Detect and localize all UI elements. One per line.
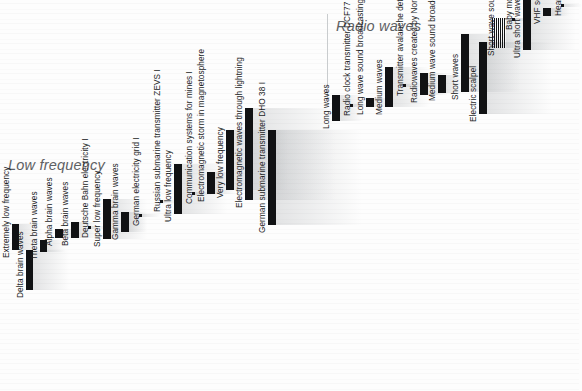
- band-label: Short waves: [451, 54, 460, 100]
- band-label: Medium wave sound broadcasting*: [428, 0, 437, 101]
- band-bar[interactable]: [71, 222, 79, 238]
- band-label: German submarine transmitter DHO 38 I: [258, 82, 267, 233]
- band-label: Very low frequency: [216, 127, 225, 198]
- band-label: Ultra short waves: [513, 0, 522, 58]
- band-bar[interactable]: [332, 95, 340, 121]
- band-label: Electromagnetic storm in magnetosphere: [197, 49, 206, 202]
- band-label: Extremely low frequency: [2, 167, 11, 259]
- band-bar[interactable]: [438, 75, 446, 93]
- band-bar[interactable]: [207, 172, 215, 194]
- band-label: Theta brain waves: [30, 191, 39, 260]
- band-halo: [564, 4, 582, 7]
- band-halo: [142, 214, 160, 217]
- band-label: Medium waves: [375, 59, 384, 115]
- band-label: Deutsche Bahn electricity I: [81, 138, 90, 238]
- band-bar[interactable]: [226, 130, 234, 190]
- band-label: Super low frequency: [93, 170, 102, 247]
- band-label: Ultra low frequency: [164, 150, 173, 222]
- band-bar[interactable]: [479, 42, 487, 114]
- band-label: Short wave sound broadcasting*: [487, 0, 496, 56]
- band-halo: [276, 130, 362, 225]
- band-label: Communication systems for mines I: [185, 71, 194, 204]
- band-bar[interactable]: [385, 67, 393, 107]
- band-label: Beta brain waves: [61, 182, 70, 246]
- band-bar[interactable]: [268, 130, 276, 225]
- band-label: Electromagnetic waves through lightning: [235, 57, 244, 208]
- band-bar[interactable]: [523, 0, 531, 50]
- band-label: German electricity grid I: [132, 137, 141, 226]
- band-label: Hearing aids* I: [554, 0, 563, 16]
- band-bar[interactable]: [245, 108, 253, 200]
- band-bar[interactable]: [543, 8, 551, 16]
- band-label: Delta brain waves: [16, 231, 25, 298]
- band-label: Electric scalpel: [469, 66, 478, 122]
- band-label: Russian submarine transmitter ZEVS I: [153, 69, 162, 212]
- band-label: Alpha brain waves: [45, 177, 54, 246]
- band-label: Long waves: [322, 84, 331, 129]
- band-bar[interactable]: [174, 164, 182, 214]
- band-label: Long wave sound broadcasting*: [356, 0, 365, 115]
- band-label: Transmitter avalanche detector I: [396, 0, 405, 96]
- band-bar[interactable]: [461, 34, 469, 92]
- band-bar[interactable]: [420, 73, 428, 95]
- band-label: Radio clock transmitter DCF77 I: [343, 0, 352, 116]
- band-bar[interactable]: [366, 98, 374, 107]
- band-bar[interactable]: [121, 212, 129, 232]
- band-bar[interactable]: [103, 199, 111, 239]
- band-label: Gamma brain waves: [111, 163, 120, 240]
- section-title-low-frequency: Low frequency: [8, 157, 105, 173]
- band-label: VHF sound broadcasting*: [533, 0, 542, 24]
- band-label: Radiowaves created by Northern lights: [410, 0, 419, 103]
